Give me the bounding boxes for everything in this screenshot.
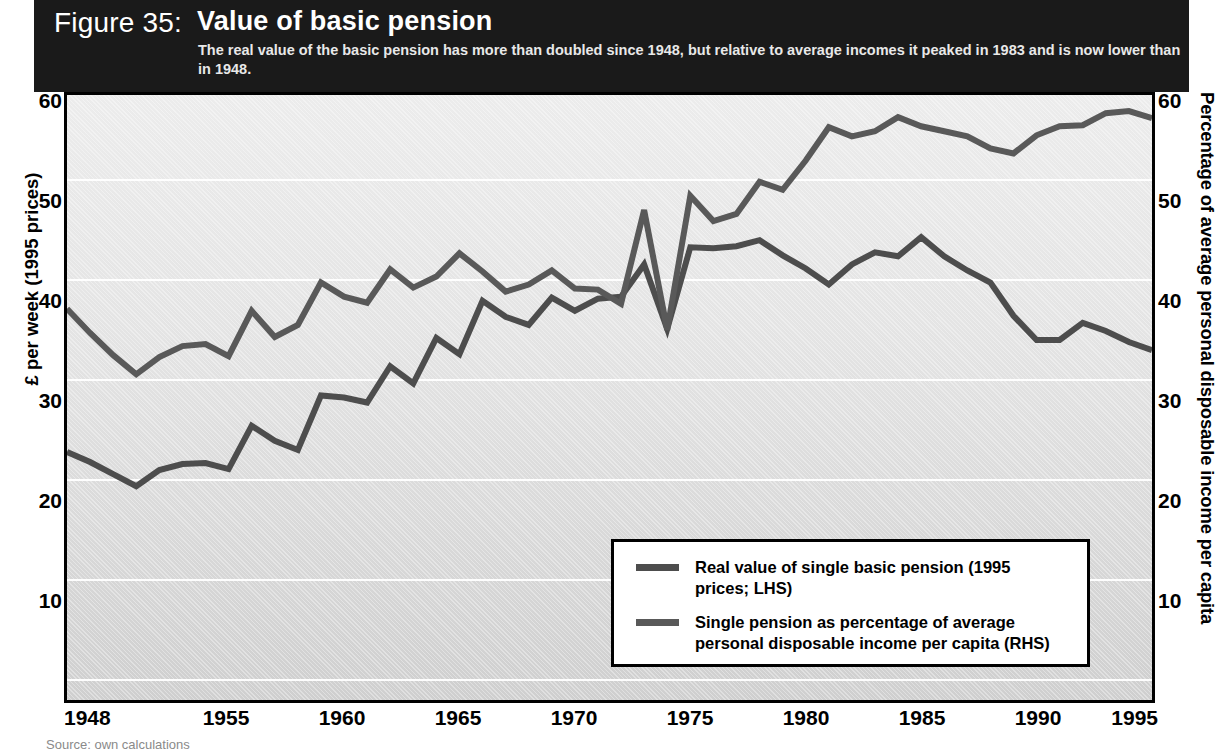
left-axis-tick: 30 — [4, 389, 62, 413]
left-axis-tick: 20 — [4, 489, 62, 513]
left-axis-title: £ per week (1995 prices) — [21, 139, 43, 419]
legend-label: Real value of single basic pension (1995… — [695, 557, 1055, 599]
series-line-percentage — [67, 111, 1152, 374]
x-axis-tick: 1980 — [783, 706, 830, 730]
series-line-real-value — [67, 237, 1152, 486]
left-axis-tick: 10 — [4, 589, 62, 613]
source-note: Source: own calculations — [46, 737, 190, 752]
x-axis-tick: 1948 — [64, 706, 111, 730]
legend-item-real-value: Real value of single basic pension (1995… — [636, 557, 1055, 599]
figure-number: Figure 35: — [54, 7, 182, 39]
legend-swatch-icon — [636, 619, 679, 626]
legend-label: Single pension as percentage of average … — [695, 612, 1055, 654]
x-axis-tick: 1990 — [1015, 706, 1062, 730]
figure-container: Figure 35: Value of basic pension The re… — [0, 0, 1223, 753]
chart-legend: Real value of single basic pension (1995… — [611, 539, 1090, 667]
left-axis-tick: 60 — [4, 89, 62, 113]
left-axis-tick: 50 — [4, 189, 62, 213]
left-axis-tick: 40 — [4, 289, 62, 313]
figure-header-band: Figure 35: Value of basic pension The re… — [34, 0, 1189, 92]
figure-title: Value of basic pension — [197, 6, 492, 37]
x-axis-tick: 1975 — [667, 706, 714, 730]
legend-swatch-icon — [636, 564, 679, 571]
x-axis-tick: 1985 — [899, 706, 946, 730]
x-axis-tick: 1955 — [203, 706, 250, 730]
x-axis-tick: 1960 — [319, 706, 366, 730]
x-axis-tick: 1970 — [551, 706, 598, 730]
right-axis-title: Percentage of average personal disposabl… — [1188, 92, 1218, 692]
x-axis-tick: 1995 — [1111, 706, 1158, 730]
figure-subtitle: The real value of the basic pension has … — [198, 41, 1183, 79]
left-axis: £ per week (1995 prices) 60 50 40 30 20 … — [0, 0, 62, 753]
legend-item-percentage: Single pension as percentage of average … — [636, 612, 1055, 654]
x-axis-tick: 1965 — [435, 706, 482, 730]
